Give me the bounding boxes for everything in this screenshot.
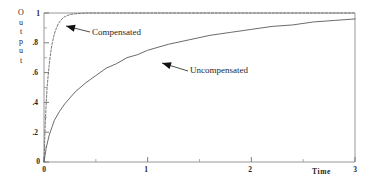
y-axis-label-letter: O	[18, 8, 24, 18]
y-tick-label: .6	[24, 68, 38, 77]
y-axis-label-letter: t	[20, 27, 22, 37]
annotation-arrowhead	[162, 62, 172, 69]
x-tick-label: 1	[141, 165, 151, 174]
y-axis-label-letter: t	[20, 56, 22, 66]
data-series	[44, 13, 355, 162]
plot-canvas	[0, 0, 369, 181]
y-tick-label: .8	[24, 38, 38, 47]
chart-figure: O u t p u t 1 .8 .6 .4 .2 0 0 1 2 3 Time…	[0, 0, 369, 181]
annotation-compensated-label: Compensated	[92, 27, 141, 37]
annotation-arrowhead	[66, 25, 76, 32]
series-line-uncompensated	[44, 19, 355, 162]
x-tick-label: 3	[350, 165, 360, 174]
y-axis-label-letter: u	[19, 46, 23, 56]
y-tick-label: 1	[26, 9, 40, 18]
axis-ticks	[44, 13, 355, 162]
y-tick-label: 0	[26, 157, 40, 166]
axis-frame	[44, 13, 355, 162]
y-tick-label: .4	[24, 98, 38, 107]
y-tick-label: .2	[24, 128, 38, 137]
x-tick-label: 0	[39, 165, 49, 174]
annotation-uncompensated-label: Uncompensated	[190, 65, 248, 75]
x-axis-label: Time	[312, 167, 331, 176]
series-line-compensated	[44, 13, 355, 162]
y-axis-label-letter: p	[19, 37, 23, 47]
y-axis-label-letter: u	[19, 18, 23, 28]
x-tick-label: 2	[245, 165, 255, 174]
